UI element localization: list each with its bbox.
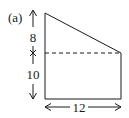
diagram-canvas: (a) 8 10 12 [0,0,129,118]
trapezoid-shape [45,13,121,99]
width-label: 12 [73,100,86,115]
vertical-dimension-arrow [30,10,37,99]
lower-height-label: 10 [27,67,40,82]
figure-label: (a) [8,10,22,25]
upper-height-label: 8 [30,30,37,45]
